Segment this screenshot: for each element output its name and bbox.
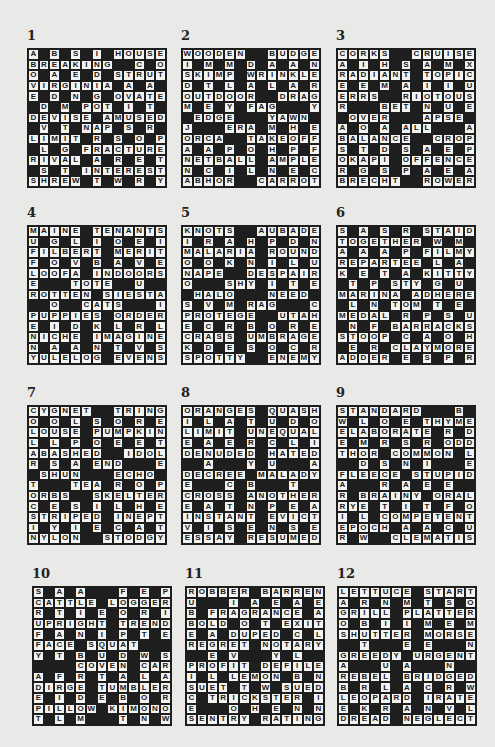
letter-cell: F <box>33 629 44 640</box>
letter-cell: D <box>313 682 324 693</box>
letter-cell: E <box>145 311 156 322</box>
letter-cell: I <box>380 619 391 630</box>
letter-cell: G <box>432 279 443 290</box>
letter-cell: T <box>401 279 412 290</box>
letter-cell: D <box>218 619 229 630</box>
letter-cell: D <box>160 619 171 630</box>
letter-cell: U <box>464 311 475 322</box>
letter-cell: S <box>401 144 412 155</box>
black-square <box>464 279 475 290</box>
letter-cell: E <box>123 247 134 258</box>
letter-cell: P <box>411 512 422 523</box>
black-square <box>145 237 156 248</box>
black-square <box>81 70 92 81</box>
letter-cell: O <box>49 300 60 311</box>
letter-cell: E <box>145 113 156 124</box>
letter-cell: C <box>390 134 401 145</box>
letter-cell: L <box>412 608 423 619</box>
letter-cell: L <box>267 81 278 92</box>
letter-cell: D <box>224 448 235 459</box>
black-square <box>412 661 423 672</box>
black-square <box>150 608 161 619</box>
black-square <box>113 448 124 459</box>
letter-cell: S <box>70 49 81 60</box>
letter-cell: B <box>92 258 103 269</box>
letter-cell: E <box>193 113 204 124</box>
letter-cell: T <box>102 166 113 177</box>
letter-cell: L <box>277 470 288 481</box>
letter-cell: C <box>411 49 422 60</box>
black-square <box>412 682 423 693</box>
letter-cell: R <box>145 144 156 155</box>
crossword-grid: ROBBERBARRENUIAEAEBFRAGRANCEABOLDOTEXITE… <box>185 586 325 726</box>
crossword-puzzle: 1ABSIHOUSEBREAKINGCOOAEDSTRUTVIRGINIAAAE… <box>27 48 167 188</box>
black-square <box>411 102 422 113</box>
letter-cell: D <box>299 290 310 301</box>
letter-cell: E <box>464 102 475 113</box>
black-square <box>348 417 359 428</box>
crossword-puzzle: 7CYGNETTRINGOOLSORELOUSEPUMPKINLLPOEETAB… <box>27 405 167 545</box>
black-square <box>337 321 348 332</box>
black-square <box>422 491 433 502</box>
letter-cell: T <box>102 102 113 113</box>
letter-cell: I <box>224 166 235 177</box>
letter-cell: O <box>123 268 134 279</box>
black-square <box>235 501 246 512</box>
letter-cell: A <box>113 332 124 343</box>
letter-cell: T <box>155 512 166 523</box>
letter-cell: I <box>267 70 278 81</box>
letter-cell: S <box>182 353 193 364</box>
letter-cell: U <box>464 523 475 534</box>
letter-cell: P <box>348 523 359 534</box>
letter-cell: N <box>207 714 218 725</box>
letter-cell: A <box>44 640 55 651</box>
letter-cell: N <box>271 672 282 683</box>
letter-cell: T <box>113 343 124 354</box>
letter-cell: V <box>39 123 50 134</box>
black-square <box>299 258 310 269</box>
letter-cell: W <box>260 682 271 693</box>
letter-cell: O <box>197 619 208 630</box>
letter-cell: F <box>309 144 320 155</box>
letter-cell: A <box>402 682 413 693</box>
letter-cell: E <box>197 714 208 725</box>
letter-cell: N <box>214 406 225 417</box>
letter-cell: A <box>224 155 235 166</box>
letter-cell: O <box>207 661 218 672</box>
black-square <box>92 533 103 544</box>
black-square <box>60 523 71 534</box>
letter-cell: N <box>182 166 193 177</box>
letter-cell: A <box>379 491 390 502</box>
letter-cell: A <box>267 155 278 166</box>
black-square <box>81 155 92 166</box>
letter-cell: T <box>358 144 369 155</box>
letter-cell: E <box>155 459 166 470</box>
letter-cell: S <box>28 512 39 523</box>
black-square <box>214 60 225 71</box>
letter-cell: C <box>281 608 292 619</box>
letter-cell: T <box>155 70 166 81</box>
letter-cell: A <box>102 81 113 92</box>
letter-cell: K <box>107 704 118 715</box>
black-square <box>256 155 267 166</box>
letter-cell: E <box>337 438 348 449</box>
letter-cell: R <box>203 237 214 248</box>
letter-cell: U <box>193 91 204 102</box>
letter-cell: Y <box>391 651 402 662</box>
letter-cell: R <box>423 651 434 662</box>
letter-cell: A <box>422 166 433 177</box>
black-square <box>432 166 443 177</box>
black-square <box>411 523 422 534</box>
letter-cell: I <box>454 70 465 81</box>
letter-cell: E <box>422 480 433 491</box>
letter-cell: N <box>75 629 86 640</box>
letter-cell: L <box>379 311 390 322</box>
black-square <box>107 714 118 725</box>
letter-cell: E <box>401 134 412 145</box>
black-square <box>65 661 76 672</box>
letter-cell: S <box>134 113 145 124</box>
letter-cell: S <box>28 176 39 187</box>
letter-cell: T <box>359 640 370 651</box>
letter-cell: B <box>390 321 401 332</box>
letter-cell: O <box>145 470 156 481</box>
